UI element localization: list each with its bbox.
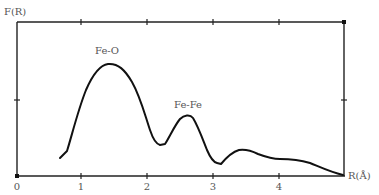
fr-curve (60, 64, 343, 175)
annotation-fe-o: Fe-O (95, 45, 119, 56)
y-axis-label: F(R) (4, 6, 26, 17)
x-axis-label: R(Å) (348, 170, 371, 181)
exafs-chart: 0 1 2 3 4 F(R) R(Å) Fe-O Fe-Fe (0, 0, 379, 195)
x-tick-label-3: 3 (210, 181, 216, 192)
corner-marker (342, 20, 346, 24)
origin-marker (15, 174, 19, 178)
annotation-fe-fe: Fe-Fe (174, 99, 202, 110)
x-tick-label-4: 4 (276, 181, 282, 192)
x-tick-label-0: 0 (14, 181, 20, 192)
x-tick-label-2: 2 (144, 181, 150, 192)
x-tick-label-1: 1 (78, 181, 84, 192)
